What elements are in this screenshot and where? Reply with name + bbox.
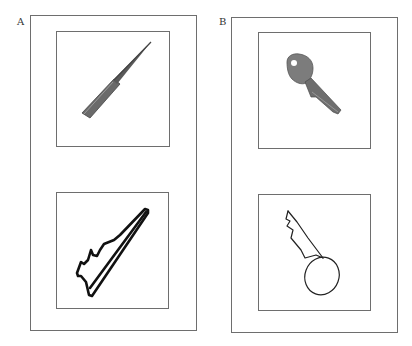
comb-drawing-icon xyxy=(77,209,148,296)
key-drawing-icon xyxy=(286,211,344,300)
key-icon xyxy=(287,54,341,114)
comb-icon xyxy=(82,42,151,118)
